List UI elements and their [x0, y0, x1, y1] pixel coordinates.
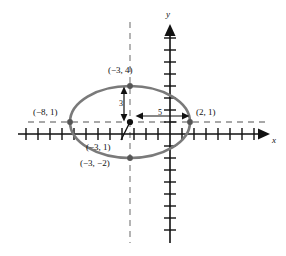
label-center: (−3, 1): [86, 143, 111, 152]
x-axis-arrowhead: [258, 129, 270, 140]
y-axis-arrowhead: [165, 24, 176, 36]
figure-canvas: (−3, 4) (−8, 1) (2, 1) (−3, 1) (−3, −2) …: [0, 0, 286, 256]
point-center: [127, 119, 133, 125]
measure-semi-major-arrowhead-left2: [136, 113, 144, 120]
point-right-vertex: [187, 119, 193, 125]
label-right-vertex: (2, 1): [196, 108, 216, 117]
label-axis-y: y: [166, 10, 170, 19]
label-axis-x: x: [272, 136, 276, 145]
point-bottom-covertex: [127, 155, 133, 161]
label-left-vertex: (−8, 1): [33, 108, 58, 117]
label-top-vertex: (−3, 4): [108, 66, 133, 75]
measure-semi-minor-arrowhead-down: [121, 114, 128, 122]
point-top-covertex: [127, 83, 133, 89]
label-bottom-vertex: (−3, −2): [80, 159, 110, 168]
measure-label-semi-major: 5: [158, 109, 162, 117]
measure-semi-minor-arrowhead-up: [121, 87, 128, 95]
ellipse-coordinate-diagram: [0, 0, 286, 256]
point-left-vertex: [67, 119, 73, 125]
measure-label-semi-minor: 3: [119, 100, 123, 108]
